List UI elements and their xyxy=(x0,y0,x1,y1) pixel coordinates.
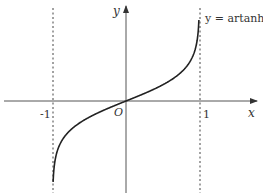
origin-label: O xyxy=(114,106,123,119)
artanh-graph: y x O -1 1 y = artanh x xyxy=(0,0,263,193)
tick-label-neg1: -1 xyxy=(40,108,51,121)
tick-label-1: 1 xyxy=(203,108,210,121)
y-axis-label: y xyxy=(112,4,120,18)
function-label: y = artanh x xyxy=(204,12,263,25)
x-axis-label: x xyxy=(248,106,255,120)
